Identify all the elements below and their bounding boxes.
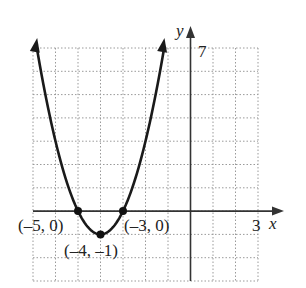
- point-label-minus3-0: (–3, 0): [124, 216, 169, 235]
- parabola-plot: y 7 x 3 (–5, 0) (–4, –1) (–3, 0): [0, 0, 306, 288]
- curve-arrowheads: [30, 38, 167, 53]
- x-axis-label: x: [268, 214, 277, 233]
- x-tick-3: 3: [252, 216, 261, 235]
- y-axis-label: y: [174, 21, 184, 40]
- y-tick-7: 7: [198, 42, 207, 61]
- point-label-minus5-0: (–5, 0): [18, 216, 63, 235]
- point-label-vertex: (–4, –1): [64, 241, 118, 260]
